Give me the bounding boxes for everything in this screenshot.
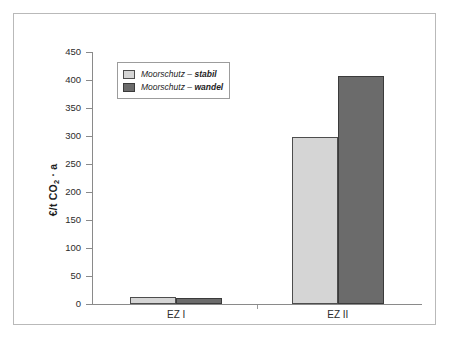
y-tick-label-text: 0: [21, 299, 81, 309]
figure-frame: €/t CO2 · a 450400350300250200150100500 …: [13, 13, 436, 325]
legend-label-wandel-emph: wandel: [194, 82, 223, 92]
legend-label-stabil-emph: stabil: [194, 69, 216, 79]
y-tick-label-300: 300: [19, 131, 81, 141]
bar-ez-ii-stabil: [292, 137, 338, 304]
y-tick-label-text: 450: [21, 47, 81, 57]
y-tick-label-250: 250: [19, 159, 81, 169]
y-tick-label-text: 150: [21, 215, 81, 225]
legend-label-stabil: Moorschutz – stabil: [141, 69, 217, 79]
y-tick-label-text: 350: [21, 103, 81, 113]
y-tick-label-50: 50: [19, 271, 81, 281]
y-tick-label-150: 150: [19, 215, 81, 225]
legend-label-wandel: Moorschutz – wandel: [141, 82, 223, 92]
y-tick-label-text: 250: [21, 159, 81, 169]
y-tick-label-text: 100: [21, 243, 81, 253]
legend-swatch-wandel: [123, 83, 135, 92]
y-axis-title-subscript: 2: [52, 180, 61, 184]
y-tick-label-text: 400: [21, 75, 81, 85]
y-tick-label-200: 200: [19, 187, 81, 197]
bar-ez-i-stabil: [130, 297, 176, 304]
x-axis-label-ez-ii: EZ II: [298, 310, 378, 320]
y-tick-label-350: 350: [19, 103, 81, 113]
x-axis-label-ez-i: EZ I: [136, 310, 216, 320]
y-tick-0: [86, 304, 93, 305]
y-tick-label-400: 400: [19, 75, 81, 85]
legend-item-stabil: Moorschutz – stabil: [123, 68, 223, 80]
bar-ez-i-wandel: [176, 298, 222, 304]
legend-swatch-stabil: [123, 70, 135, 79]
bar-ez-ii-wandel: [338, 76, 384, 304]
y-tick-label-100: 100: [19, 243, 81, 253]
chart-legend: Moorschutz – stabil Moorschutz – wandel: [117, 62, 230, 99]
legend-label-wandel-plain: Moorschutz –: [141, 82, 192, 92]
legend-label-stabil-plain: Moorschutz –: [141, 69, 192, 79]
legend-item-wandel: Moorschutz – wandel: [123, 81, 223, 93]
y-tick-label-0: 0: [19, 299, 81, 309]
y-tick-label-450: 450: [19, 47, 81, 57]
y-tick-label-text: 200: [21, 187, 81, 197]
x-axis-center-tick: [257, 305, 258, 309]
y-tick-label-text: 50: [21, 271, 81, 281]
y-tick-label-text: 300: [21, 131, 81, 141]
